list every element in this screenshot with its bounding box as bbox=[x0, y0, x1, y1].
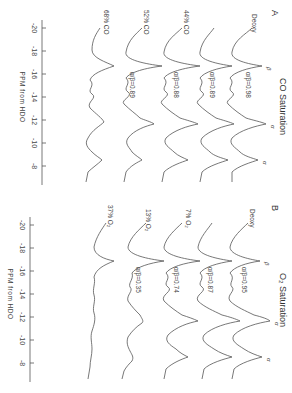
peak-label-alpha: α bbox=[274, 322, 280, 325]
trace-label: Deoxy bbox=[249, 209, 256, 227]
ratio-label: α/β=0.98 bbox=[245, 72, 252, 98]
tick-label: -12 bbox=[31, 115, 38, 125]
panel-title: CO Saturation bbox=[278, 78, 288, 135]
tick-label: -14 bbox=[19, 289, 26, 299]
ratio-label: α/β=0.87 bbox=[207, 267, 214, 293]
tick-label: -14 bbox=[31, 92, 38, 102]
trace-label: 52% CO bbox=[143, 10, 150, 35]
trace-label: 37% O₂ bbox=[107, 205, 114, 227]
peak-label-alpha: α bbox=[266, 358, 272, 361]
tick-label: -8 bbox=[31, 163, 38, 169]
figure: A CO Saturation Deoxy 44% CO 52% CO 68% … bbox=[0, 0, 292, 393]
trace-label: Deoxy bbox=[251, 14, 258, 32]
x-axis-title: PPM from HDO bbox=[19, 71, 26, 122]
tick-label: -16 bbox=[19, 266, 26, 276]
x-axis-title: PPM from HDO bbox=[7, 268, 14, 319]
trace-label: 44% CO bbox=[183, 10, 190, 35]
panel-title: O₂ Saturation bbox=[278, 273, 288, 327]
peak-label-alpha: α bbox=[270, 125, 276, 128]
tick-label: -10 bbox=[19, 335, 26, 345]
ratio-label: α/β=0.35 bbox=[135, 267, 142, 293]
peak-label-beta: β bbox=[266, 67, 272, 70]
trace-label: 68% CO bbox=[103, 10, 110, 35]
panel-b: B O₂ Saturation Deoxy 7% O₂ 13% O₂ 37% O… bbox=[0, 197, 292, 393]
ratio-label: α/β=0.89 bbox=[209, 72, 216, 98]
trace-label: 13% O₂ bbox=[145, 209, 152, 231]
tick-label: -20 bbox=[31, 23, 38, 33]
panel-letter: B bbox=[270, 205, 280, 211]
ratio-label: α/β=0.95 bbox=[241, 267, 248, 293]
panel-letter: A bbox=[270, 10, 280, 16]
ratio-label: α/β=0.88 bbox=[173, 72, 180, 98]
tick-label: -18 bbox=[31, 46, 38, 56]
peak-label-beta: β bbox=[264, 262, 270, 265]
peak-label-alpha: α bbox=[262, 161, 268, 164]
ratio-label: α/β=0.89 bbox=[129, 72, 136, 98]
tick-label: -20 bbox=[19, 220, 26, 230]
tick-label: -10 bbox=[31, 138, 38, 148]
panel-a: A CO Saturation Deoxy 44% CO 52% CO 68% … bbox=[0, 0, 292, 196]
tick-label: -16 bbox=[31, 69, 38, 79]
trace-label: 7% O₂ bbox=[185, 209, 192, 228]
tick-label: -18 bbox=[19, 243, 26, 253]
ratio-label: α/β=0.74 bbox=[173, 267, 180, 293]
tick-label: -8 bbox=[19, 360, 26, 366]
tick-label: -12 bbox=[19, 312, 26, 322]
